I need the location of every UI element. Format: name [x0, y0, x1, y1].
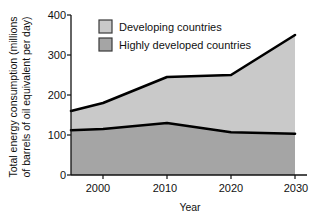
legend-swatch-highly-developed-countries	[99, 38, 112, 51]
y-tick-label-300: 300	[48, 49, 66, 61]
y-tick-label-100: 100	[48, 129, 66, 141]
x-tick-label-2000: 2000	[86, 182, 110, 194]
y-tick-label-0: 0	[60, 169, 66, 181]
x-axis-title: Year	[179, 201, 201, 213]
x-tick-label-2010: 2010	[153, 182, 177, 194]
y-axis-title-line-2: of barrels of oil equivalent per day)	[20, 16, 32, 177]
x-tick-label-2030: 2030	[284, 182, 308, 194]
legend-swatch-developing-countries	[99, 20, 112, 33]
x-tick-label-2020: 2020	[219, 182, 243, 194]
legend-label-developing-countries: Developing countries	[119, 21, 222, 33]
chart-figure: 400 300 200 100 0 2000 2010 2020 2030 Ye…	[0, 0, 315, 220]
y-axis-title-line-1: Total energy consumption (millions	[7, 16, 19, 177]
legend-item-highly-developed-countries[interactable]: Highly developed countries	[99, 38, 252, 51]
y-tick-label-400: 400	[48, 9, 66, 21]
y-tick-label-200: 200	[48, 89, 66, 101]
legend-label-highly-developed-countries: Highly developed countries	[119, 39, 252, 51]
area-chart: 400 300 200 100 0 2000 2010 2020 2030 Ye…	[0, 0, 315, 220]
